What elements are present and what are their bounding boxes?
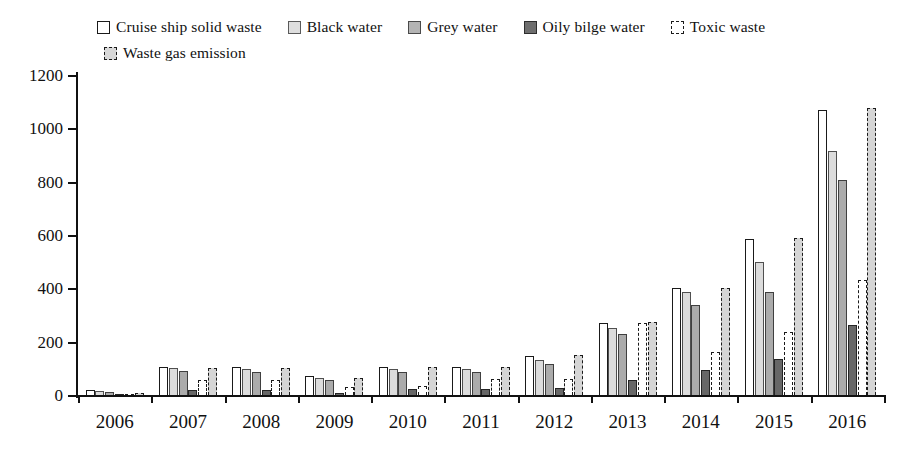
bar-black-water-2016 (828, 151, 837, 395)
bar-waste-gas-emission-2011 (501, 367, 510, 395)
bar-oily-bilge-water-2016 (848, 325, 857, 395)
bar-waste-gas-emission-2007 (208, 368, 217, 395)
bar-oily-bilge-water-2010 (408, 389, 417, 395)
bar-cruise-ship-solid-waste-2010 (379, 367, 388, 395)
bar-grey-water-2016 (838, 180, 847, 395)
x-axis-tick-label: 2016 (807, 412, 887, 431)
y-axis-tick (68, 342, 77, 344)
bar-cruise-ship-solid-waste-2009 (305, 376, 314, 395)
bar-grey-water-2012 (545, 364, 554, 395)
bar-toxic-waste-2007 (198, 380, 207, 395)
bar-black-water-2007 (169, 368, 178, 395)
x-axis-tick-label: 2015 (734, 412, 814, 431)
x-axis-tick (884, 395, 886, 403)
bar-toxic-waste-2011 (491, 379, 500, 395)
x-axis-tick (151, 395, 153, 403)
bar-cruise-ship-solid-waste-2011 (452, 367, 461, 395)
bar-waste-gas-emission-2012 (574, 355, 583, 395)
bar-toxic-waste-2010 (418, 386, 427, 395)
x-axis-tick-label: 2007 (148, 412, 228, 431)
bar-oily-bilge-water-2011 (481, 389, 490, 395)
y-axis-tick (68, 182, 77, 184)
bar-waste-gas-emission-2014 (721, 288, 730, 395)
y-axis-tick-label: 1200 (3, 67, 63, 84)
x-axis-tick-label: 2008 (221, 412, 301, 431)
bar-cruise-ship-solid-waste-2015 (745, 239, 754, 395)
bar-oily-bilge-water-2012 (555, 388, 564, 395)
bar-cruise-ship-solid-waste-2016 (818, 110, 827, 395)
x-axis-tick (78, 395, 80, 403)
y-axis-tick-label: 400 (3, 280, 63, 297)
y-axis-tick-label: 1000 (3, 120, 63, 137)
y-axis-tick (68, 75, 77, 77)
bar-oily-bilge-water-2013 (628, 380, 637, 395)
bar-black-water-2011 (462, 369, 471, 395)
y-axis-tick-label: 800 (3, 174, 63, 191)
y-axis-tick (68, 395, 77, 397)
bar-black-water-2014 (682, 292, 691, 395)
bar-toxic-waste-2012 (564, 379, 573, 395)
bar-waste-gas-emission-2013 (648, 322, 657, 395)
x-axis-tick (591, 395, 593, 403)
bar-black-water-2006 (95, 391, 104, 395)
bar-toxic-waste-2016 (858, 280, 867, 395)
bar-grey-water-2009 (325, 380, 334, 395)
bar-oily-bilge-water-2015 (774, 359, 783, 395)
x-axis-line (76, 395, 886, 397)
bar-black-water-2015 (755, 262, 764, 395)
x-axis-tick (298, 395, 300, 403)
bar-cruise-ship-solid-waste-2007 (159, 367, 168, 395)
bar-toxic-waste-2006 (125, 394, 134, 396)
bar-grey-water-2008 (252, 372, 261, 395)
bar-black-water-2013 (608, 328, 617, 395)
x-axis-tick (664, 395, 666, 403)
bar-oily-bilge-water-2014 (701, 370, 710, 395)
bar-cruise-ship-solid-waste-2014 (672, 288, 681, 395)
x-axis-tick-label: 2009 (294, 412, 374, 431)
bar-grey-water-2007 (179, 371, 188, 395)
y-axis-tick-label: 0 (3, 387, 63, 404)
bar-oily-bilge-water-2008 (262, 390, 271, 395)
x-axis-tick-label: 2006 (75, 412, 155, 431)
x-axis-tick (518, 395, 520, 403)
y-axis-tick-label: 600 (3, 227, 63, 244)
x-axis-tick (737, 395, 739, 403)
bar-waste-gas-emission-2008 (281, 368, 290, 395)
bar-grey-water-2011 (472, 372, 481, 395)
bar-toxic-waste-2015 (784, 332, 793, 395)
bar-oily-bilge-water-2007 (188, 390, 197, 395)
bar-toxic-waste-2014 (711, 352, 720, 395)
bar-waste-gas-emission-2010 (428, 367, 437, 395)
y-axis-tick (68, 128, 77, 130)
bar-grey-water-2015 (765, 292, 774, 395)
bar-grey-water-2006 (105, 392, 114, 395)
bar-waste-gas-emission-2009 (354, 378, 363, 395)
x-axis-tick (811, 395, 813, 403)
bar-grey-water-2013 (618, 334, 627, 395)
x-axis-tick (444, 395, 446, 403)
bar-cruise-ship-solid-waste-2012 (525, 356, 534, 395)
x-axis-tick-label: 2010 (368, 412, 448, 431)
bar-toxic-waste-2009 (345, 387, 354, 395)
bar-toxic-waste-2013 (638, 323, 647, 395)
y-axis-tick-label: 200 (3, 334, 63, 351)
bar-waste-gas-emission-2006 (135, 393, 144, 395)
bar-black-water-2009 (315, 378, 324, 395)
x-axis-tick-label: 2011 (441, 412, 521, 431)
x-axis-tick (225, 395, 227, 403)
x-axis-tick-label: 2012 (514, 412, 594, 431)
y-axis-tick (68, 288, 77, 290)
plot-area: 120010008006004002000 200620072008200920… (0, 0, 905, 472)
x-axis-tick (371, 395, 373, 403)
bar-cruise-ship-solid-waste-2013 (599, 323, 608, 395)
y-axis-tick (68, 235, 77, 237)
x-axis-tick-label: 2014 (661, 412, 741, 431)
bar-black-water-2008 (242, 369, 251, 395)
x-axis-tick-label: 2013 (588, 412, 668, 431)
bar-waste-gas-emission-2015 (794, 238, 803, 395)
bar-chart: Cruise ship solid waste Black water Grey… (0, 0, 905, 472)
bar-oily-bilge-water-2009 (335, 393, 344, 395)
bar-oily-bilge-water-2006 (115, 394, 124, 396)
bar-cruise-ship-solid-waste-2006 (86, 390, 95, 395)
bar-grey-water-2014 (691, 305, 700, 395)
